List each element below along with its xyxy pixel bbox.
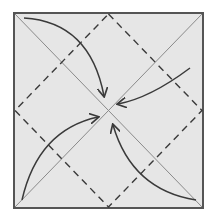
origami-fold-diagram	[0, 0, 212, 222]
